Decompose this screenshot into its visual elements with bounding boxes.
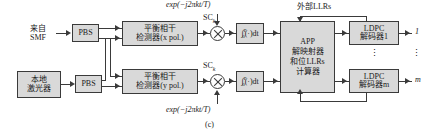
input-label-smf-line2: SMF	[30, 34, 46, 43]
arrow-pbs-top-branch-to-ydet	[115, 73, 120, 79]
subcarrier-label-top: SCk	[203, 14, 215, 24]
ldpc-decoder-m-line2: 解码器m	[359, 81, 389, 89]
app-demapper-line4: 计算器	[296, 67, 320, 77]
wire-feedback-bottom-horizontal	[300, 101, 367, 102]
subcarrier-index-top: k	[213, 18, 216, 24]
arrow-decoder1-output	[405, 30, 410, 36]
arrow-decoderm-output	[405, 78, 410, 84]
pbs-bottom-label: PBS	[81, 80, 95, 88]
arrow-app-to-decoder1	[342, 30, 347, 36]
output-label-1: 1	[415, 28, 419, 37]
arrow-pbs-bottom-branch-to-xdet	[115, 35, 120, 41]
carrier-label-top: exp(−j2πkt/T)	[166, 1, 211, 10]
integrator-bottom-body: (·)dt	[245, 76, 259, 85]
ellipsis-decoders-glyph: ⋮	[370, 52, 378, 55]
app-demapper-line3: 和位LLRs	[290, 57, 324, 67]
local-laser-line2: 激光器	[27, 85, 51, 93]
carrier-label-bottom: exp(−j2πkt/T)	[166, 106, 211, 115]
wire-pbs-top-branch-v	[110, 38, 111, 76]
pbs-bottom-block: PBS	[75, 75, 102, 93]
multiplier-icon-bottom	[210, 74, 225, 89]
pbs-top-label: PBS	[78, 29, 92, 37]
subcarrier-index-bottom: k	[213, 66, 216, 72]
arrow-feedback-bottom-to-app	[297, 89, 303, 94]
app-demapper-line2: 解映射器	[292, 47, 324, 57]
arrow-xdet-to-mult-top	[203, 30, 208, 36]
app-demapper-block: APP 解映射器 和位LLRs 计算器	[280, 21, 335, 93]
ldpc-decoder-1-block: LDPC 解码器1	[349, 21, 399, 45]
arrow-carrier-bottom	[214, 90, 220, 95]
balanced-detector-x-block: 平衡相干 检测器(x pol.)	[122, 21, 198, 46]
multiplier-icon-top	[210, 26, 225, 41]
integrator-bottom-block: ∫T0(·)dt	[236, 71, 264, 92]
input-label-smf: 来自 SMF	[20, 22, 56, 46]
wire-pbs-bottom-branch-v	[105, 38, 106, 80]
arrow-ydet-to-mult-bottom	[203, 78, 208, 84]
ldpc-decoder-m-block: LDPC 解码器m	[349, 69, 399, 93]
ellipsis-decoders: ⋮	[370, 52, 378, 55]
pbs-top-block: PBS	[72, 24, 99, 42]
arrow-feedback-top-to-app	[297, 17, 303, 22]
arrow-mult-bottom-to-integ	[229, 78, 234, 84]
arrow-smf-to-pbs-top	[66, 30, 71, 36]
arrow-integ-bottom-to-app	[273, 78, 278, 84]
arrow-integ-top-to-app	[273, 30, 278, 36]
wire-feedback-top-horizontal	[300, 16, 367, 17]
subcarrier-label-bottom-text: SC	[203, 61, 213, 70]
app-demapper-line1: APP	[300, 37, 315, 47]
balanced-detector-y-line2: 检测器(y pol.)	[136, 82, 184, 90]
arrow-pbs-top-to-xdet	[115, 25, 120, 31]
block-diagram-figure: 来自 SMF 本地 激光器 PBS PBS 平衡相干 检测器(x pol.) 平…	[0, 0, 427, 136]
arrow-pbs-bottom-to-ydet	[115, 83, 120, 89]
wire-feedback-bottom-to-app	[300, 93, 301, 102]
balanced-detector-y-block: 平衡相干 检测器(y pol.)	[122, 69, 198, 94]
integrator-top-block: ∫T0(·)dt	[236, 23, 264, 44]
local-laser-block: 本地 激光器	[17, 71, 61, 98]
arrow-app-to-decoderm	[342, 78, 347, 84]
integrator-bottom-expression: ∫T0(·)dt	[241, 76, 259, 88]
figure-caption: (c)	[205, 120, 214, 129]
subcarrier-label-bottom: SCk	[203, 62, 215, 72]
wire-carrier-bottom	[217, 95, 218, 104]
ellipsis-outputs-glyph: ⋮	[412, 52, 420, 55]
integrator-top-body: (·)dt	[245, 28, 259, 37]
output-label-m: m	[415, 76, 421, 85]
ldpc-decoder-1-line2: 解码器1	[360, 33, 388, 41]
subcarrier-label-top-text: SC	[203, 13, 213, 22]
external-llrs-label: 外部LLRs	[297, 3, 331, 12]
wire-pbs-bottom-branch-h	[102, 80, 106, 81]
arrow-mult-top-to-integ	[229, 30, 234, 36]
integrator-top-expression: ∫T0(·)dt	[241, 28, 259, 40]
balanced-detector-x-line2: 检测器(x pol.)	[136, 34, 184, 42]
ellipsis-outputs: ⋮	[412, 52, 420, 55]
